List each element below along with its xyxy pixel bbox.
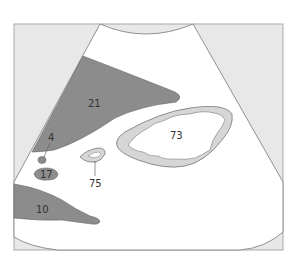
structure-4 — [38, 157, 46, 164]
label-73: 73 — [170, 130, 183, 141]
label-21: 21 — [88, 98, 101, 109]
label-75: 75 — [89, 178, 102, 189]
label-17: 17 — [40, 169, 53, 180]
label-10: 10 — [36, 204, 49, 215]
label-4: 4 — [48, 132, 54, 143]
ultrasound-diagram: 21 4 17 10 73 75 — [0, 0, 297, 264]
